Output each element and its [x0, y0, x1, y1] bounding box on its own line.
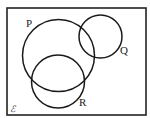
set-p-label: P [26, 17, 32, 29]
set-q-circle [79, 15, 122, 58]
universal-set-label: ℰ [10, 104, 17, 114]
set-r-label: R [79, 96, 87, 108]
venn-diagram: P Q R ℰ [0, 0, 150, 118]
set-r-circle [32, 55, 85, 108]
set-q-label: Q [120, 44, 128, 56]
